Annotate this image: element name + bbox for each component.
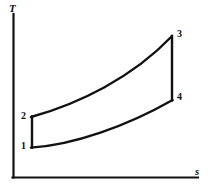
ts-diagram-figure: T s 1 2 3 4 <box>0 0 208 192</box>
x-axis-label: s <box>195 166 199 177</box>
y-axis-label: T <box>9 3 16 14</box>
state-point-label-1: 1 <box>21 141 26 151</box>
state-point-label-2: 2 <box>21 111 26 121</box>
state-point-label-3: 3 <box>177 29 182 39</box>
state-point-label-4: 4 <box>177 92 182 102</box>
process-4-1-curve <box>31 100 173 148</box>
process-2-3-curve <box>31 37 172 118</box>
